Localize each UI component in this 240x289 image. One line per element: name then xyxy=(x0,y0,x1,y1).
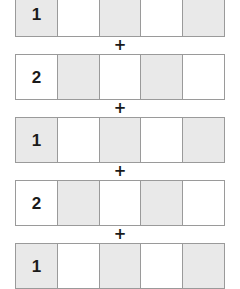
strip-cell xyxy=(57,180,100,226)
strip-row: 1 xyxy=(15,0,225,37)
strip-row: 2 xyxy=(15,54,225,100)
strip-cell xyxy=(57,0,100,37)
strip-cell xyxy=(57,117,100,163)
strip-cell xyxy=(182,180,225,226)
plus-icon: + xyxy=(114,101,127,116)
strip-group: 1 xyxy=(0,117,240,163)
strip-cell xyxy=(99,54,142,100)
strip-cell: 1 xyxy=(15,117,58,163)
strip-cell xyxy=(99,243,142,289)
strip-row: 1 xyxy=(15,243,225,289)
strip-cell xyxy=(140,54,183,100)
strip-cell xyxy=(182,0,225,37)
strip-cell: 1 xyxy=(15,0,58,37)
plus-icon: + xyxy=(114,38,127,53)
strip-cell xyxy=(140,243,183,289)
operator-row: + xyxy=(0,163,240,180)
strip-cell xyxy=(99,117,142,163)
strip-cell xyxy=(182,117,225,163)
strip-cell: 1 xyxy=(15,243,58,289)
operator-row: + xyxy=(0,100,240,117)
strip-cell xyxy=(99,180,142,226)
strip-group: 2 xyxy=(0,180,240,226)
strip-cell xyxy=(182,243,225,289)
strip-cell xyxy=(182,54,225,100)
strip-cell: 2 xyxy=(15,54,58,100)
strip-cell xyxy=(99,0,142,37)
strip-cell xyxy=(140,117,183,163)
plus-icon: + xyxy=(114,227,127,242)
plus-icon: + xyxy=(114,164,127,179)
strip-cell xyxy=(140,0,183,37)
strip-group: 1 xyxy=(0,0,240,37)
strip-row: 1 xyxy=(15,117,225,163)
strip-cell: 2 xyxy=(15,180,58,226)
strip-cell xyxy=(57,243,100,289)
operator-row: + xyxy=(0,37,240,54)
strip-group: 2 xyxy=(0,54,240,100)
operator-row: + xyxy=(0,226,240,243)
strip-group: 1 xyxy=(0,243,240,289)
strip-cell xyxy=(57,54,100,100)
strip-row: 2 xyxy=(15,180,225,226)
strip-stack: 1 + 2 + 1 xyxy=(0,0,240,289)
strip-cell xyxy=(140,180,183,226)
